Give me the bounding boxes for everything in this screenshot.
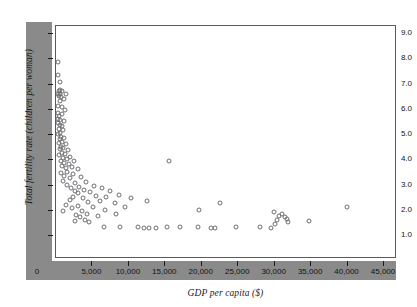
data-point (67, 176, 72, 181)
x-tick-mark (274, 261, 275, 266)
scatter-chart-figure: 01.02.03.04.05.06.07.08.09.0 5,00010,000… (0, 0, 417, 307)
data-point (307, 219, 312, 224)
x-tick-mark (310, 261, 311, 266)
x-tick-label: 35,000 (298, 268, 322, 276)
data-point (212, 226, 217, 231)
data-point (101, 225, 106, 230)
data-point (63, 202, 68, 207)
y-tick-mark (48, 159, 53, 160)
data-point (165, 225, 170, 230)
data-point (67, 197, 72, 202)
data-point (177, 224, 182, 229)
data-point (136, 225, 141, 230)
data-point (234, 225, 239, 230)
y-tick-label: 4.0 (390, 155, 412, 163)
y-tick-label: 7.0 (390, 80, 412, 88)
x-tick-label: 15,000 (152, 268, 176, 276)
y-tick-mark (48, 134, 53, 135)
data-point (117, 225, 122, 230)
data-point (96, 214, 101, 219)
data-point (87, 220, 92, 225)
x-axis-title: GDP per capita ($) (55, 288, 396, 298)
data-point (85, 200, 90, 205)
y-tick-label: 9.0 (390, 29, 412, 37)
data-point (56, 60, 61, 65)
data-point (217, 201, 222, 206)
data-point (257, 225, 262, 230)
data-point (197, 207, 202, 212)
y-tick-label: 0 (26, 268, 48, 276)
data-point (71, 158, 76, 163)
x-tick-label: 25,000 (225, 268, 249, 276)
data-point (82, 187, 87, 192)
x-tick-label: 40,000 (334, 268, 358, 276)
y-tick-mark (48, 58, 53, 59)
x-tick-mark (201, 261, 202, 266)
plot-area (55, 25, 396, 258)
data-point (122, 205, 127, 210)
x-tick-mark (237, 261, 238, 266)
data-point (75, 203, 80, 208)
y-tick-label: 3.0 (390, 181, 412, 189)
data-point (85, 211, 90, 216)
y-tick-mark (48, 33, 53, 34)
data-point (98, 198, 103, 203)
data-point (272, 210, 277, 215)
data-point (104, 195, 109, 200)
data-point (128, 196, 133, 201)
data-point (58, 80, 63, 85)
x-tick-label: 10,000 (116, 268, 140, 276)
data-point (70, 206, 75, 211)
y-tick-label: 8.0 (390, 54, 412, 62)
data-point (195, 225, 200, 230)
data-point (345, 205, 350, 210)
x-tick-mark (128, 261, 129, 266)
data-point (87, 190, 92, 195)
x-tick-label: 20,000 (189, 268, 213, 276)
data-point (93, 193, 98, 198)
data-point (147, 225, 152, 230)
data-point (102, 207, 107, 212)
data-point (76, 191, 81, 196)
y-tick-mark (48, 210, 53, 211)
data-point (112, 201, 117, 206)
x-tick-label: 30,000 (261, 268, 285, 276)
data-point (108, 188, 113, 193)
data-point (79, 174, 84, 179)
data-point (84, 179, 89, 184)
data-point (269, 225, 274, 230)
data-point (75, 167, 80, 172)
y-tick-mark (48, 109, 53, 110)
y-axis-title: Total fertility rate (children per woman… (24, 12, 34, 242)
data-point (114, 211, 119, 216)
data-point (90, 205, 95, 210)
y-tick-label: 5.0 (390, 130, 412, 138)
y-tick-label: 6.0 (390, 105, 412, 113)
data-point (286, 220, 291, 225)
x-tick-label: 5,000 (81, 268, 101, 276)
data-point (69, 164, 74, 169)
data-point (92, 183, 97, 188)
data-point (144, 198, 149, 203)
y-tick-mark (48, 185, 53, 186)
data-point (72, 219, 77, 224)
y-tick-mark (48, 235, 53, 236)
data-point (99, 186, 104, 191)
x-tick-mark (91, 261, 92, 266)
data-point (153, 226, 158, 231)
y-tick-label: 2.0 (390, 206, 412, 214)
x-tick-mark (383, 261, 384, 266)
y-tick-mark (48, 84, 53, 85)
y-tick-label: 1.0 (390, 231, 412, 239)
x-tick-label: 45,000 (371, 268, 395, 276)
x-tick-mark (164, 261, 165, 266)
data-point (166, 158, 171, 163)
data-point (56, 72, 61, 77)
x-tick-mark (347, 261, 348, 266)
data-point (61, 209, 66, 214)
data-point (117, 192, 122, 197)
